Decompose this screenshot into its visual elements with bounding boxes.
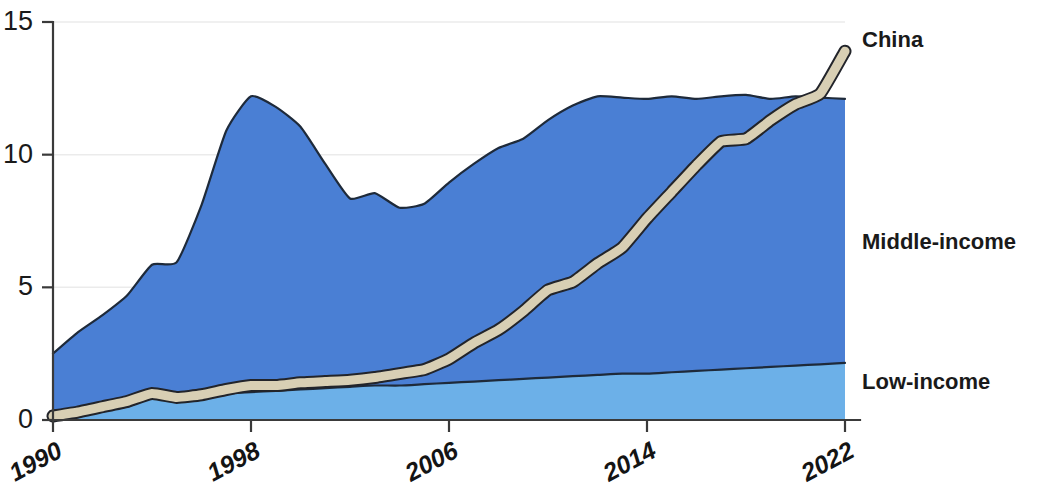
stacked-area-chart: 051015 19901998200620142022 China Middle…: [0, 0, 1054, 491]
y-tick-label-5: 5: [18, 271, 33, 301]
series-label-low-income: Low-income: [862, 369, 990, 394]
x-tick-label-1998: 1998: [202, 436, 264, 487]
y-tick-marks: [42, 22, 53, 420]
x-tick-label-2022: 2022: [795, 436, 858, 487]
series-label-china: China: [862, 27, 924, 52]
x-tick-label-2014: 2014: [597, 436, 660, 487]
x-tick-marks: [53, 420, 845, 432]
series-labels: China Middle-income Low-income: [862, 27, 1016, 394]
y-tick-label-0: 0: [18, 404, 33, 434]
plot-layers: [53, 51, 845, 420]
x-axis-tick-labels: 19901998200620142022: [4, 435, 858, 487]
series-label-middle-income: Middle-income: [862, 229, 1016, 254]
x-tick-label-1990: 1990: [4, 436, 66, 487]
y-tick-label-10: 10: [3, 139, 33, 169]
chart-page: 051015 19901998200620142022 China Middle…: [0, 0, 1054, 491]
x-tick-label-2006: 2006: [399, 435, 463, 487]
y-tick-label-15: 15: [3, 6, 33, 36]
y-axis-tick-labels: 051015: [3, 6, 33, 434]
